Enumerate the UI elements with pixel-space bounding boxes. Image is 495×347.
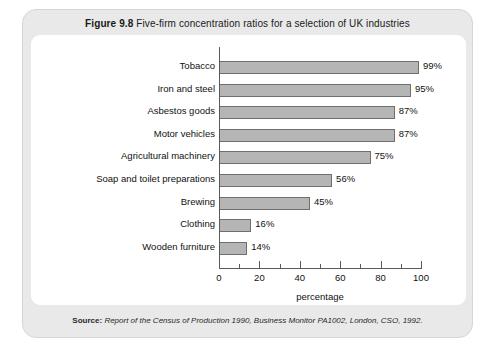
x-axis-tick-label: 80 bbox=[375, 272, 386, 283]
x-axis-major-tick bbox=[421, 261, 422, 268]
figure-caption: Five-firm concentration ratios for a sel… bbox=[136, 18, 410, 29]
category-label: Iron and steel bbox=[35, 83, 215, 94]
category-label: Soap and toilet preparations bbox=[35, 173, 215, 184]
figure-footer: Source: Report of the Census of Producti… bbox=[23, 304, 472, 337]
category-label: Wooden furniture bbox=[35, 241, 215, 252]
category-label: Tobacco bbox=[35, 60, 215, 71]
bar bbox=[219, 129, 395, 142]
bar bbox=[219, 106, 395, 119]
x-axis-tick-label: 20 bbox=[254, 272, 265, 283]
source-label: Source: bbox=[72, 316, 102, 325]
x-axis-minor-tick bbox=[320, 264, 321, 268]
category-label: Motor vehicles bbox=[35, 128, 215, 139]
source-citation: Source: Report of the Census of Producti… bbox=[72, 316, 422, 325]
bar-value-label: 56% bbox=[336, 173, 355, 184]
figure-header: Figure 9.8 Five-firm concentration ratio… bbox=[23, 10, 472, 37]
bar-value-label: 87% bbox=[399, 128, 418, 139]
x-axis-title: percentage bbox=[296, 291, 344, 302]
bar bbox=[219, 197, 310, 210]
x-axis-major-tick bbox=[219, 261, 220, 268]
bar-value-label: 75% bbox=[375, 150, 394, 161]
category-label: Clothing bbox=[35, 218, 215, 229]
x-axis-line bbox=[219, 268, 422, 269]
bar bbox=[219, 174, 332, 187]
bar-value-label: 87% bbox=[399, 105, 418, 116]
x-axis-minor-tick bbox=[360, 264, 361, 268]
x-axis-tick-label: 100 bbox=[413, 272, 429, 283]
x-axis-tick-label: 0 bbox=[216, 272, 221, 283]
bar-value-label: 99% bbox=[423, 60, 442, 71]
x-axis-tick-label: 40 bbox=[295, 272, 306, 283]
bar-value-label: 95% bbox=[415, 83, 434, 94]
category-label: Agricultural machinery bbox=[35, 150, 215, 161]
x-axis-tick-label: 60 bbox=[335, 272, 346, 283]
bar bbox=[219, 84, 411, 97]
bar bbox=[219, 219, 251, 232]
bar bbox=[219, 61, 419, 74]
x-axis-major-tick bbox=[300, 261, 301, 268]
figure-number: Figure 9.8 bbox=[85, 18, 133, 29]
x-axis-major-tick bbox=[340, 261, 341, 268]
figure-title: Figure 9.8 Five-firm concentration ratio… bbox=[85, 18, 410, 29]
plot-panel: Tobacco99%Iron and steel95%Asbestos good… bbox=[31, 35, 466, 305]
bar-value-label: 14% bbox=[251, 241, 270, 252]
figure-card: Figure 9.8 Five-firm concentration ratio… bbox=[22, 9, 473, 338]
x-axis-minor-tick bbox=[401, 264, 402, 268]
x-axis-major-tick bbox=[381, 261, 382, 268]
bar-value-label: 45% bbox=[314, 196, 333, 207]
x-axis-minor-tick bbox=[280, 264, 281, 268]
x-axis-major-tick bbox=[259, 261, 260, 268]
bar bbox=[219, 151, 371, 164]
bar-chart: Tobacco99%Iron and steel95%Asbestos good… bbox=[31, 35, 466, 305]
bar-value-label: 16% bbox=[255, 218, 274, 229]
category-label: Brewing bbox=[35, 196, 215, 207]
bar bbox=[219, 242, 247, 255]
x-axis-minor-tick bbox=[239, 264, 240, 268]
y-axis-line bbox=[219, 47, 220, 268]
source-text: Report of the Census of Production 1990,… bbox=[104, 316, 422, 325]
category-label: Asbestos goods bbox=[35, 105, 215, 116]
